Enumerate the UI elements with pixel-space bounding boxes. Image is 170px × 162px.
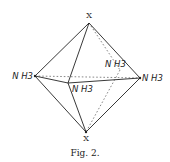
figure-caption: Fig. 2. bbox=[70, 148, 99, 158]
label-bottom-x: X bbox=[83, 134, 89, 143]
edge-front-right bbox=[68, 78, 140, 83]
label-top-x: X bbox=[86, 11, 92, 20]
visible-edges bbox=[35, 23, 140, 132]
edge-top-front bbox=[68, 23, 89, 83]
vertex-left-dot bbox=[34, 75, 36, 77]
label-left-nh3: N H3 bbox=[12, 71, 33, 81]
hidden-edges bbox=[35, 23, 140, 132]
edge-right-bottom bbox=[86, 78, 140, 132]
octahedron-diagram: X X N H3 N H3 N H3 N H3 Fig. 2. bbox=[0, 0, 170, 162]
vertex-bottom-dot bbox=[85, 131, 87, 133]
vertex-right-dot bbox=[139, 77, 141, 79]
label-right-nh3: N H3 bbox=[142, 73, 163, 83]
label-back-nh3: N H3 bbox=[105, 59, 126, 69]
edge-top-right bbox=[89, 23, 140, 78]
edge-top-left bbox=[35, 23, 89, 76]
hidden-edge-left-right bbox=[35, 76, 140, 78]
label-front-nh3: N H3 bbox=[72, 84, 93, 94]
